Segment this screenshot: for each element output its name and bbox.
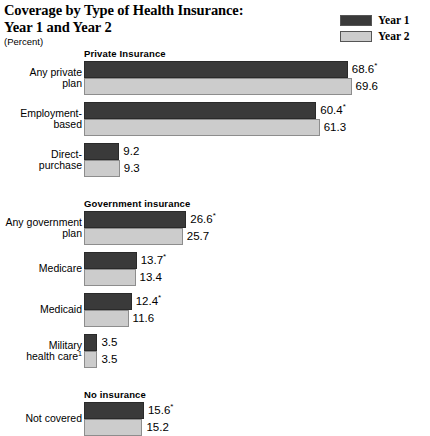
- category-label: Not covered: [0, 413, 82, 425]
- bar-value-year1: 60.4*: [320, 104, 346, 117]
- bar-pair: 12.4*11.6: [84, 293, 424, 327]
- bar-group: Any privateplan68.6*69.6: [0, 61, 430, 95]
- category-label-line: Medicaid: [0, 304, 82, 316]
- bar-year2: [84, 269, 136, 286]
- bar-year1: [84, 402, 144, 419]
- bar-year2: [84, 228, 183, 245]
- bar-group: Employment-based60.4*61.3: [0, 102, 430, 136]
- footnote-marker: 1: [78, 350, 82, 357]
- bar-pair: 68.6*69.6: [84, 61, 424, 95]
- bar-value-year1: 26.6*: [190, 213, 216, 226]
- bar-group: Militaryhealth care13.53.5: [0, 334, 430, 368]
- category-label-line: plan: [0, 78, 82, 90]
- bar-value-year1: 15.6*: [148, 404, 174, 417]
- bar-year1: [84, 211, 186, 228]
- bar-pair: 15.6*15.2: [84, 402, 424, 436]
- bar-pair: 9.29.3: [84, 143, 424, 177]
- bar-pair: 26.6*25.7: [84, 211, 424, 245]
- bar-group: Medicare13.7*13.4: [0, 252, 430, 286]
- bar-value-year2: 11.6: [133, 312, 155, 325]
- bar-value-year2: 61.3: [324, 121, 346, 134]
- significance-marker: *: [158, 293, 161, 302]
- category-label-line: plan: [0, 228, 82, 240]
- category-label: Medicare: [0, 263, 82, 275]
- bar-group: Direct-purchase9.29.3: [0, 143, 430, 177]
- bar-pair: 13.7*13.4: [84, 252, 424, 286]
- bar-year1: [84, 61, 348, 78]
- significance-marker: *: [163, 252, 166, 261]
- category-label-line: based: [0, 119, 82, 131]
- category-label: Militaryhealth care1: [0, 340, 82, 363]
- bar-value-year2: 3.5: [101, 353, 117, 366]
- category-label-line: Medicare: [0, 263, 82, 275]
- bar-year2: [84, 119, 320, 136]
- bar-group: Medicaid12.4*11.6: [0, 293, 430, 327]
- bar-year1: [84, 334, 97, 351]
- significance-marker: *: [343, 102, 346, 111]
- bar-year1: [84, 252, 137, 269]
- bar-year2: [84, 310, 129, 327]
- bar-value-year1: 68.6*: [352, 63, 378, 76]
- category-label: Any governmentplan: [0, 217, 82, 240]
- bar-value-year2: 15.2: [146, 421, 168, 434]
- bar-pair: 60.4*61.3: [84, 102, 424, 136]
- bar-year1: [84, 102, 316, 119]
- bar-value-year2: 69.6: [356, 80, 378, 93]
- significance-marker: *: [170, 402, 173, 411]
- category-label-line: purchase: [0, 160, 82, 172]
- category-label: Medicaid: [0, 304, 82, 316]
- significance-marker: *: [213, 211, 216, 220]
- bar-value-year1: 13.7*: [141, 254, 167, 267]
- category-label: Any privateplan: [0, 67, 82, 90]
- category-label: Employment-based: [0, 108, 82, 131]
- bar-value-year2: 25.7: [187, 230, 209, 243]
- section-heading-2: Government insurance: [84, 198, 190, 209]
- bar-group: Not covered15.6*15.2: [0, 402, 430, 436]
- bar-value-year1: 12.4*: [136, 295, 162, 308]
- bar-year2: [84, 78, 352, 95]
- bar-year1: [84, 143, 119, 160]
- bar-pair: 3.53.5: [84, 334, 424, 368]
- section-heading-3: No insurance: [84, 389, 146, 400]
- significance-marker: *: [374, 61, 377, 70]
- category-label-line: Not covered: [0, 413, 82, 425]
- bar-year2: [84, 419, 142, 436]
- category-label: Direct-purchase: [0, 149, 82, 172]
- bar-year2: [84, 351, 97, 368]
- bar-value-year2: 9.3: [124, 162, 140, 175]
- bar-value-year1: 9.2: [123, 145, 139, 158]
- bar-value-year2: 13.4: [140, 271, 162, 284]
- bar-year1: [84, 293, 132, 310]
- category-label-line: health care1: [0, 351, 82, 363]
- bar-group: Any governmentplan26.6*25.7: [0, 211, 430, 245]
- bar-year2: [84, 160, 120, 177]
- bar-value-year1: 3.5: [101, 336, 117, 349]
- section-heading-1: Private Insurance: [84, 48, 166, 59]
